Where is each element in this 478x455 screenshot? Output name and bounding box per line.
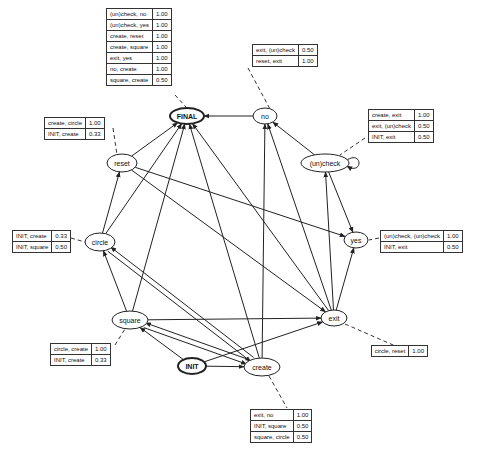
prob-table-yes: (un)check, (un)check1.00INIT, exit0.50 [380, 230, 463, 253]
probability-value: 1.00 [409, 346, 428, 357]
context-label: INIT, exit [369, 132, 415, 143]
context-label: create, reset [107, 31, 153, 42]
table-row: (un)check, (un)check1.00 [381, 231, 463, 242]
node-create[interactable]: create [244, 358, 280, 376]
probability-value: 0.50 [444, 242, 463, 253]
context-label: INIT, create [45, 129, 86, 140]
table-row: create, reset1.00 [107, 31, 172, 42]
leader-line [340, 138, 365, 155]
node-label: create [252, 364, 272, 371]
edge-circle-to-create [108, 251, 251, 361]
node-label: no [261, 113, 269, 120]
edge-exit-to-uncheck [326, 172, 334, 310]
probability-value: 0.33 [52, 231, 71, 242]
leader-line [175, 95, 186, 107]
node-no[interactable]: no [253, 108, 277, 124]
context-label: no, create [107, 64, 153, 75]
transition-edges [103, 116, 360, 367]
node-label: circle [92, 239, 108, 246]
table-row: exit, yes1.00 [107, 53, 172, 64]
node-label: exit [329, 315, 340, 322]
context-label: (un)check, no [107, 9, 153, 20]
context-label: (un)check, yes [107, 20, 153, 31]
context-label: INIT, square [251, 421, 294, 432]
context-label: INIT, create [51, 355, 92, 366]
edge-exit-to-yes [336, 248, 354, 310]
context-label: reset, exit [253, 56, 299, 67]
context-label: square, create [107, 75, 153, 86]
probability-value: 1.00 [153, 64, 172, 75]
node-exit[interactable]: exit [321, 310, 347, 326]
context-label: circle, reset [371, 346, 409, 357]
prob-table-create: exit, no1.00INIT, square0.50square, circ… [250, 409, 312, 443]
node-init[interactable]: INIT [178, 358, 206, 374]
prob-table-reset: create, circle1.00INIT, create0.33 [44, 117, 105, 140]
prob-table-final: (un)check, no1.00(un)check, yes1.00creat… [106, 8, 172, 86]
leader-line [269, 376, 287, 408]
edge-exit-to-no [268, 124, 332, 310]
edge-uncheck-to-yes [329, 172, 353, 232]
context-label: exit, (un)check [369, 121, 415, 132]
edge-create-to-FINAL [189, 124, 259, 358]
table-row: INIT, create0.33 [51, 355, 111, 366]
table-row: create, exit1.00 [369, 110, 434, 121]
edge-reset-to-exit [132, 170, 326, 312]
probability-value: 1.00 [153, 20, 172, 31]
node-reset[interactable]: reset [107, 154, 137, 172]
node-yes[interactable]: yes [344, 232, 368, 248]
table-row: (un)check, yes1.00 [107, 20, 172, 31]
state-nodes: FINALno(un)checkyesexitcreateINITsquarec… [85, 108, 368, 376]
node-label: FINAL [177, 113, 198, 120]
prob-table-circle: INIT, create0.33INIT, square0.50 [12, 230, 71, 253]
probability-value: 1.00 [92, 344, 111, 355]
table-row: square, circle0.50 [251, 432, 312, 443]
table-row: INIT, create0.33 [45, 129, 105, 140]
context-label: create, exit [369, 110, 415, 121]
table-row: exit, no1.00 [251, 410, 312, 421]
node-label: INIT [185, 363, 199, 370]
node-label: square [119, 317, 141, 325]
probability-value: 0.50 [415, 132, 434, 143]
table-row: INIT, exit0.50 [381, 242, 463, 253]
table-row: INIT, create0.33 [13, 231, 71, 242]
node-circle[interactable]: circle [85, 233, 115, 251]
table-row: no, create1.00 [107, 64, 172, 75]
edge-INIT-to-square [140, 328, 183, 360]
table-row: exit, (un)check0.50 [253, 45, 318, 56]
node-uncheck[interactable]: (un)check [301, 154, 349, 172]
leader-line [248, 68, 270, 109]
context-label: (un)check, (un)check [381, 231, 444, 242]
edge-square-to-circle [103, 251, 126, 311]
edge-square-to-FINAL [133, 124, 185, 311]
probability-value: 0.50 [293, 421, 312, 432]
table-row: INIT, exit0.50 [369, 132, 434, 143]
edge-circle-to-reset [103, 172, 120, 233]
edge-reset-to-yes [135, 167, 345, 236]
node-label: (un)check [310, 160, 341, 168]
prob-table-uncheck: create, exit1.00exit, (un)check0.50INIT,… [368, 109, 434, 143]
edge-exit-to-FINAL [193, 124, 329, 311]
table-row: square, create0.50 [107, 75, 172, 86]
table-row: circle, create1.00 [51, 344, 111, 355]
probability-value: 1.00 [86, 118, 105, 129]
table-row: create, square1.00 [107, 42, 172, 53]
node-final[interactable]: FINAL [170, 108, 204, 124]
context-label: create, circle [45, 118, 86, 129]
probability-value: 1.00 [153, 42, 172, 53]
probability-value: 0.50 [415, 121, 434, 132]
node-square[interactable]: square [112, 311, 148, 329]
context-label: create, square [107, 42, 153, 53]
probability-value: 0.50 [52, 242, 71, 253]
table-row: reset, exit1.00 [253, 56, 318, 67]
probability-value: 0.50 [153, 75, 172, 86]
context-label: INIT, square [13, 242, 52, 253]
probability-value: 1.00 [299, 56, 318, 67]
probability-value: 1.00 [153, 53, 172, 64]
context-label: exit, (un)check [253, 45, 299, 56]
context-label: square, circle [251, 432, 294, 443]
context-label: exit, yes [107, 53, 153, 64]
probability-value: 1.00 [444, 231, 463, 242]
context-label: exit, no [251, 410, 294, 421]
table-row: (un)check, no1.00 [107, 9, 172, 20]
probability-value: 0.33 [92, 355, 111, 366]
